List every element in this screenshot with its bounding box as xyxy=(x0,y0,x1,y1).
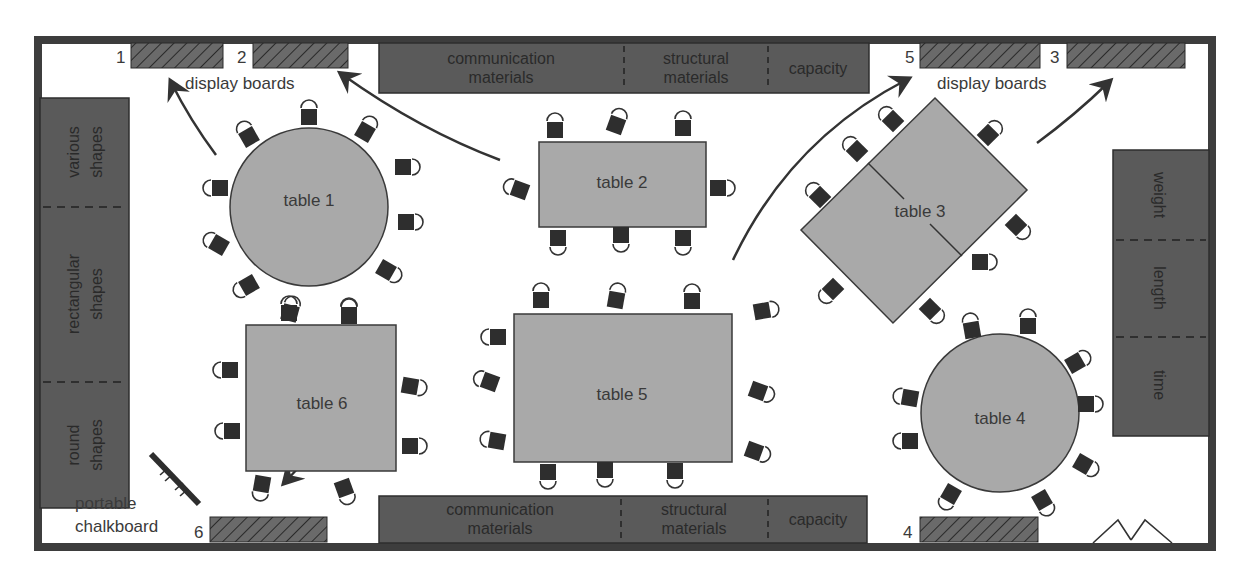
svg-text:5: 5 xyxy=(905,48,914,67)
svg-text:rectangular: rectangular xyxy=(65,253,82,334)
svg-text:materials: materials xyxy=(662,520,727,537)
svg-text:weight: weight xyxy=(1151,171,1168,219)
svg-text:1: 1 xyxy=(116,48,125,67)
svg-text:table 3: table 3 xyxy=(894,202,945,221)
display-boards-label-left: display boards xyxy=(185,74,295,93)
svg-text:structural: structural xyxy=(663,50,729,67)
svg-text:round: round xyxy=(65,425,82,466)
display-board-4: 4 xyxy=(903,517,1038,542)
svg-text:materials: materials xyxy=(469,69,534,86)
svg-text:table 4: table 4 xyxy=(974,409,1025,428)
svg-text:various: various xyxy=(65,126,82,178)
svg-text:chalkboard: chalkboard xyxy=(75,517,158,536)
display-board-3: 3 xyxy=(1050,43,1185,68)
display-board-1: 1 xyxy=(116,43,223,68)
svg-text:table 1: table 1 xyxy=(283,191,334,210)
svg-text:time: time xyxy=(1151,370,1168,400)
classroom-floor-plan: 1 2 5 3 6 4 display boards display board… xyxy=(0,0,1250,574)
display-board-2: 2 xyxy=(237,43,348,68)
left-shelf: various shapes rectangular shapes round … xyxy=(40,98,129,508)
svg-text:communication: communication xyxy=(447,50,555,67)
svg-text:shapes: shapes xyxy=(88,268,105,320)
bottom-shelf: communication materials structural mater… xyxy=(379,496,867,543)
svg-text:table 2: table 2 xyxy=(596,173,647,192)
svg-text:table 5: table 5 xyxy=(596,385,647,404)
right-shelf: weight length time xyxy=(1113,150,1209,436)
svg-text:2: 2 xyxy=(237,48,246,67)
top-shelf: communication materials structural mater… xyxy=(379,43,869,93)
svg-text:length: length xyxy=(1151,266,1168,310)
svg-text:materials: materials xyxy=(468,520,533,537)
svg-text:4: 4 xyxy=(903,523,912,542)
svg-text:capacity: capacity xyxy=(789,511,848,528)
svg-text:table 6: table 6 xyxy=(296,394,347,413)
svg-text:structural: structural xyxy=(661,501,727,518)
svg-text:shapes: shapes xyxy=(88,419,105,471)
display-board-5: 5 xyxy=(905,43,1040,68)
display-boards-label-right: display boards xyxy=(937,74,1047,93)
svg-text:communication: communication xyxy=(446,501,554,518)
svg-text:6: 6 xyxy=(194,523,203,542)
svg-text:capacity: capacity xyxy=(789,60,848,77)
svg-text:materials: materials xyxy=(664,69,729,86)
svg-text:shapes: shapes xyxy=(88,126,105,178)
display-board-6: 6 xyxy=(194,517,327,542)
svg-text:portable: portable xyxy=(75,494,136,513)
svg-text:3: 3 xyxy=(1050,48,1059,67)
